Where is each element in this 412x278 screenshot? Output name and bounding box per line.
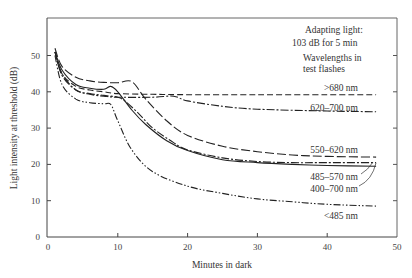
label-400-700: 400–700 nm <box>310 184 358 194</box>
y-tick-label: 0 <box>36 232 41 242</box>
adapting-light-value: 103 dB for 5 min <box>292 38 358 48</box>
y-tick-label: 30 <box>31 123 41 133</box>
y-axis-title: Light intensity at threshold (dB) <box>9 67 20 189</box>
plot-frame <box>47 18 397 237</box>
wavelengths-heading-2: test flashes <box>303 64 345 74</box>
x-tick-label: 0 <box>46 242 51 252</box>
label-620-700: 620–700 nm <box>310 103 358 113</box>
label-485-570: 485–570 nm <box>310 172 358 182</box>
x-tick-label: 30 <box>253 242 263 252</box>
wavelengths-heading-1: Wavelengths in <box>303 53 362 63</box>
x-tick-label: 50 <box>393 242 403 252</box>
y-tick-label: 20 <box>31 159 41 169</box>
adapting-light-label: Adapting light: <box>305 25 363 35</box>
label-550-620: 550–620 nm <box>310 145 358 155</box>
y-tick-label: 50 <box>31 51 41 61</box>
dark-adaptation-chart: 0102030405001020304050 Minutes in dark L… <box>0 0 412 278</box>
x-tick-label: 20 <box>183 242 193 252</box>
label-gt680: >680 nm <box>324 83 359 93</box>
x-tick-label: 40 <box>323 242 333 252</box>
x-axis-title: Minutes in dark <box>192 260 252 270</box>
x-tick-label: 10 <box>113 242 123 252</box>
leader-arrow-485-570 <box>361 162 373 174</box>
y-tick-label: 10 <box>31 196 41 206</box>
label-lt485: <485 nm <box>324 211 359 221</box>
y-tick-label: 40 <box>31 87 41 97</box>
